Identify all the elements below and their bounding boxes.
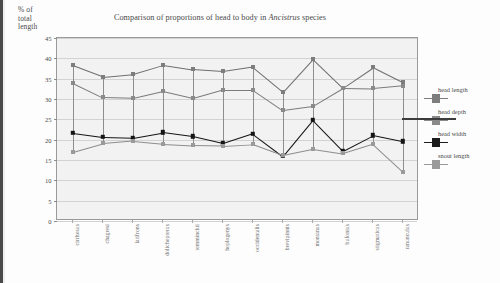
data-point-marker xyxy=(71,150,75,154)
x-axis-tick-mark xyxy=(342,220,343,223)
chart-title: Comparison of proportions of head to bod… xyxy=(70,13,370,22)
x-axis-tick-mark xyxy=(282,220,283,223)
x-axis-tick-label: dolichopterus xyxy=(164,224,170,256)
data-point-marker xyxy=(221,144,225,148)
data-point-marker xyxy=(161,142,165,146)
x-axis-tick-label: chagresi xyxy=(104,224,110,243)
legend-label: snout length xyxy=(438,152,469,159)
x-axis-tick-mark xyxy=(222,220,223,223)
y-axis-tick-mark xyxy=(54,221,57,222)
x-axis-tick-label: montanus xyxy=(314,224,320,247)
series-line-segment xyxy=(163,144,193,147)
x-axis-tick-label: brevipinnis xyxy=(284,224,290,250)
chart-page: % of total length Comparison of proporti… xyxy=(0,0,500,283)
x-axis-tick-mark xyxy=(162,220,163,223)
data-point-marker xyxy=(131,139,135,143)
series-line-segment xyxy=(223,144,253,147)
x-axis-tick-mark xyxy=(312,220,313,223)
legend-label: head depth xyxy=(438,108,466,115)
series-line-segment xyxy=(73,143,103,153)
data-point-marker xyxy=(401,170,405,174)
y-axis-title-line3: length xyxy=(18,23,64,32)
series-line-segment xyxy=(343,144,373,154)
x-axis-tick-mark xyxy=(372,220,373,223)
scan-edge-light xyxy=(3,0,5,283)
legend-marker-icon xyxy=(424,138,448,147)
legend-item[interactable]: head width xyxy=(424,130,498,152)
series-line-segment xyxy=(253,144,283,156)
series-line-segment xyxy=(193,145,223,146)
x-axis-tick-mark xyxy=(72,220,73,223)
chart-legend: head lengthhead depthhead widthsnout len… xyxy=(424,86,498,174)
x-axis-tick-mark xyxy=(132,220,133,223)
data-point-marker xyxy=(101,141,105,145)
x-axis-tick-label: stigmaticus xyxy=(374,224,380,251)
x-axis-tick-label: occidentalis xyxy=(254,224,260,252)
chart-title-genus: Ancistrus xyxy=(269,13,300,22)
y-axis-title: % of total length xyxy=(18,6,64,32)
series-line-segment xyxy=(372,144,403,172)
legend-marker-square xyxy=(432,94,440,103)
legend-item[interactable]: snout length xyxy=(424,152,498,174)
legend-label: head length xyxy=(438,86,468,93)
data-series xyxy=(57,38,417,219)
x-axis-tick-label: bufonius xyxy=(344,224,350,244)
x-axis-tick-mark xyxy=(102,220,103,223)
legend-marker-icon xyxy=(424,160,448,169)
data-point-marker xyxy=(371,142,375,146)
x-axis-tick-mark xyxy=(192,220,193,223)
x-axis-tick-mark xyxy=(252,220,253,223)
x-axis-tick-label: cirrhosus xyxy=(74,224,80,245)
gridline xyxy=(57,221,417,222)
legend-item[interactable]: head length xyxy=(424,86,498,108)
x-axis-tick-label: temminckii xyxy=(194,224,200,250)
data-point-marker xyxy=(311,147,315,151)
x-axis-tick-mark xyxy=(402,220,403,223)
x-axis-tick-label: hoplogenys xyxy=(224,224,230,251)
series-line-segment xyxy=(313,149,343,154)
data-point-marker xyxy=(191,143,195,147)
x-axis-tick-label: latifrons xyxy=(134,224,140,244)
x-axis-tick-label: ranunculus xyxy=(404,224,410,250)
chart-title-tail: species xyxy=(300,13,326,22)
data-point-marker xyxy=(281,153,285,157)
data-point-marker xyxy=(251,142,255,146)
legend-leader-line xyxy=(402,118,456,119)
legend-label: head width xyxy=(438,130,466,137)
series-line-segment xyxy=(283,149,313,156)
legend-marker-square xyxy=(432,138,440,147)
data-point-marker xyxy=(341,151,345,155)
legend-marker-icon xyxy=(424,94,448,103)
plot-area: 051015202530354045 xyxy=(56,37,418,220)
chart-title-plain: Comparison of proportions of head to bod… xyxy=(114,13,269,22)
series-line-segment xyxy=(103,141,133,144)
legend-marker-square xyxy=(432,160,440,169)
series-line-segment xyxy=(133,141,163,145)
